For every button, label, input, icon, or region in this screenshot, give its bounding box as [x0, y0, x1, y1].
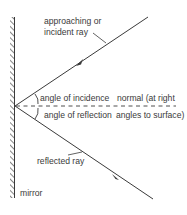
- incident-label-line2: incident ray: [44, 27, 89, 37]
- normal-label-line2: angles to surface): [116, 110, 184, 120]
- angle-incidence-label: angle of incidence: [40, 93, 109, 103]
- mirror-label: mirror: [20, 188, 43, 198]
- angle-reflection-arc: [35, 108, 38, 119]
- reflected-leader-line: [68, 152, 82, 155]
- incident-arrow-icon: [76, 59, 83, 66]
- reflected-ray-label: reflected ray: [37, 156, 85, 166]
- mirror-hatching: [10, 17, 14, 198]
- reflection-diagram: approaching or incident ray angle of inc…: [0, 0, 187, 215]
- angle-incidence-arc: [35, 94, 38, 104]
- angle-reflection-label: angle of reflection: [44, 110, 112, 120]
- mirror: [10, 17, 15, 198]
- incident-label-line1: approaching or: [44, 16, 101, 26]
- normal-label-line1: normal (at right: [117, 93, 175, 103]
- incident-leader-line: [93, 33, 106, 43]
